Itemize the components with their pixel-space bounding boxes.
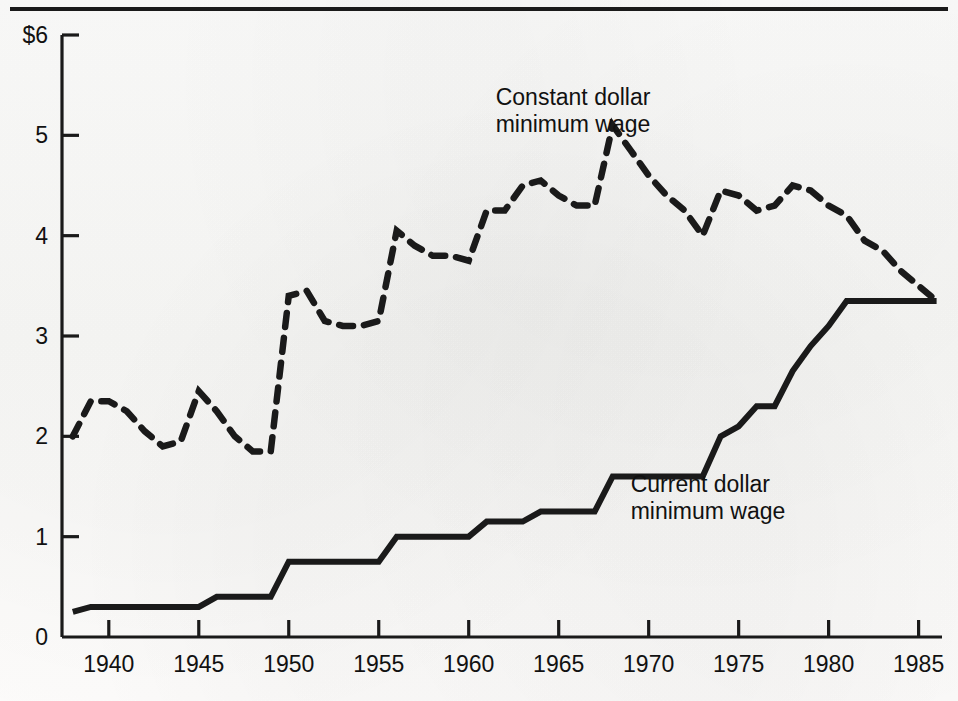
x-tick-label: 1960	[443, 651, 494, 677]
constant-dollar-annotation: Constant dollarminimum wage	[496, 84, 651, 137]
constant-dollar-annotation-line1: Constant dollar	[496, 84, 651, 110]
x-tick-label: 1985	[893, 651, 944, 677]
x-tick-label: 1945	[173, 651, 224, 677]
chart-figure: $6543210 1940194519501955196019651970197…	[0, 0, 958, 701]
data-series	[73, 125, 937, 612]
x-tick-label: 1975	[713, 651, 764, 677]
y-tick-label: 5	[35, 122, 48, 148]
x-tick-label: 1950	[263, 651, 314, 677]
constant-dollar-annotation-line2: minimum wage	[496, 111, 651, 137]
y-tick-label: $6	[22, 22, 48, 48]
x-axis: 1940194519501955196019651970197519801985	[62, 620, 944, 677]
series-annotations: Constant dollarminimum wageCurrent dolla…	[496, 84, 786, 523]
minimum-wage-line-chart: $6543210 1940194519501955196019651970197…	[0, 0, 958, 701]
series-line-current-dollar-minimum-wage	[73, 301, 937, 612]
current-dollar-annotation-line1: Current dollar	[631, 471, 771, 497]
x-tick-label: 1940	[83, 651, 134, 677]
current-dollar-annotation: Current dollarminimum wage	[631, 471, 786, 524]
y-tick-label: 2	[35, 423, 48, 449]
current-dollar-annotation-line2: minimum wage	[631, 498, 786, 524]
x-tick-label: 1980	[803, 651, 854, 677]
series-line-constant-dollar-minimum-wage	[73, 125, 937, 451]
y-tick-label: 3	[35, 323, 48, 349]
y-tick-label: 1	[35, 524, 48, 550]
x-tick-label: 1955	[353, 651, 404, 677]
x-tick-label: 1970	[623, 651, 674, 677]
y-tick-label: 0	[35, 624, 48, 650]
x-tick-label: 1965	[533, 651, 584, 677]
y-tick-label: 4	[35, 223, 48, 249]
y-axis: $6543210	[22, 22, 79, 650]
